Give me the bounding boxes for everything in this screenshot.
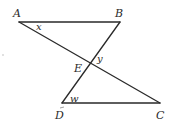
angle-label-y: y xyxy=(96,53,103,64)
geometry-diagram: A B E D C x y w xyxy=(0,0,173,129)
segment-ac xyxy=(19,22,160,103)
stray-mark xyxy=(2,54,4,56)
point-label-c: C xyxy=(156,109,165,122)
tick-mark xyxy=(60,107,64,108)
segment-bd xyxy=(62,22,120,103)
angle-label-x: x xyxy=(36,21,42,32)
point-label-a: A xyxy=(12,7,21,20)
angle-label-w: w xyxy=(70,93,79,104)
point-label-d: D xyxy=(54,109,64,122)
point-label-e: E xyxy=(73,62,82,75)
point-label-b: B xyxy=(114,7,123,20)
